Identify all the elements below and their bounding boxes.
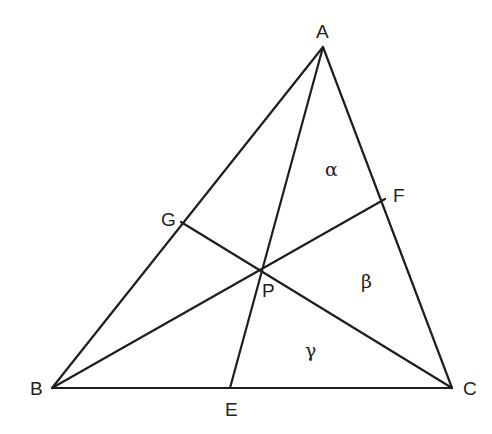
side-ab: [52, 47, 323, 388]
side-ca: [323, 47, 452, 388]
region-gamma: γ: [305, 339, 316, 361]
region-alpha: α: [325, 158, 338, 180]
label-p: P: [262, 280, 275, 301]
triangle-diagram: A B C E F G P α β γ: [0, 0, 492, 434]
label-g: G: [161, 209, 176, 230]
region-beta: β: [361, 270, 372, 292]
label-c: C: [463, 378, 477, 399]
label-e: E: [225, 399, 238, 420]
label-b: B: [30, 378, 43, 399]
label-a: A: [316, 21, 329, 42]
label-f: F: [393, 185, 405, 206]
cevian-bf: [52, 199, 385, 388]
cevian-cg: [181, 222, 452, 388]
cevian-ae: [230, 47, 323, 388]
